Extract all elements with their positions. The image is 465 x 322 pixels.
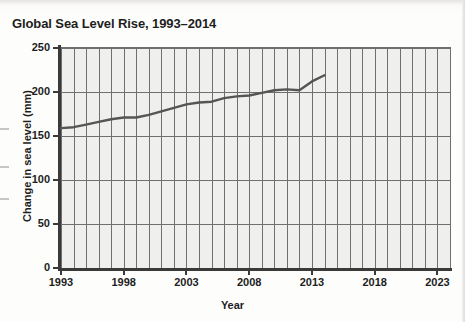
- y-axis-tick-label: 0: [0, 261, 50, 273]
- x-axis-tick: [374, 271, 376, 275]
- y-axis-tick: [53, 91, 58, 93]
- x-axis-tick: [123, 271, 125, 275]
- x-axis-tick-label: 2023: [414, 276, 460, 288]
- page-top-shadow: [0, 0, 465, 5]
- x-axis-tick: [60, 271, 62, 275]
- y-axis-title: Change in sea level (mm): [21, 71, 33, 241]
- gridline-horizontal: [61, 48, 450, 49]
- horizontal-gridlines: [61, 48, 450, 268]
- gridline-horizontal: [61, 224, 450, 225]
- x-axis-line: [58, 268, 452, 271]
- gridline-horizontal: [61, 92, 450, 93]
- y-axis-tick: [53, 223, 58, 225]
- x-axis-tick-label: 1998: [101, 276, 147, 288]
- x-axis-tick: [436, 271, 438, 275]
- x-axis-title: Year: [0, 299, 465, 311]
- x-axis-tick: [311, 271, 313, 275]
- page-margin-mark: [0, 198, 9, 200]
- y-axis-tick-label: 250: [0, 41, 50, 53]
- y-axis-tick: [53, 135, 58, 137]
- x-axis-tick: [185, 271, 187, 275]
- y-axis-tick: [53, 267, 58, 269]
- x-axis-tick-label: 2013: [289, 276, 335, 288]
- x-axis-tick-label: 1993: [38, 276, 84, 288]
- y-axis-tick: [53, 179, 58, 181]
- x-axis-tick-label: 2008: [226, 276, 272, 288]
- page-margin-mark: [0, 166, 9, 168]
- x-axis-tick-label: 2003: [163, 276, 209, 288]
- x-axis-tick: [248, 271, 250, 275]
- x-axis-tick-label: 2018: [352, 276, 398, 288]
- plot-area: [61, 48, 450, 268]
- gridline-vertical: [450, 48, 451, 268]
- chart-title: Global Sea Level Rise, 1993–2014: [12, 16, 216, 31]
- gridline-horizontal: [61, 180, 450, 181]
- y-axis-line: [58, 45, 61, 271]
- y-axis-tick: [53, 47, 58, 49]
- gridline-horizontal: [61, 136, 450, 137]
